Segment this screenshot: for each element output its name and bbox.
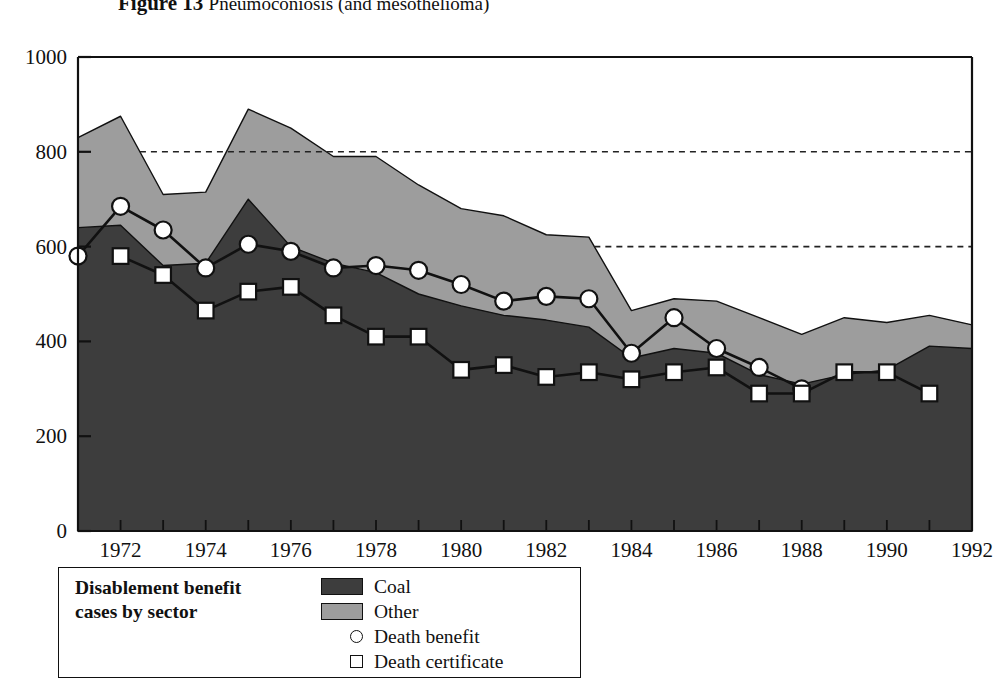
death-certificate-marker bbox=[453, 362, 469, 378]
death-certificate-marker bbox=[368, 329, 384, 345]
death-benefit-marker bbox=[155, 222, 172, 239]
death-certificate-marker bbox=[113, 248, 129, 264]
death-certificate-marker bbox=[879, 364, 895, 380]
y-tick-label: 0 bbox=[57, 519, 68, 543]
death-certificate-marker bbox=[496, 357, 512, 373]
death-certificate-marker bbox=[198, 303, 214, 319]
x-tick-label: 1992 bbox=[951, 538, 993, 562]
death-benefit-marker bbox=[495, 293, 512, 310]
death-benefit-marker bbox=[580, 290, 597, 307]
x-tick-label: 1982 bbox=[525, 538, 567, 562]
death-benefit-marker bbox=[282, 243, 299, 260]
death-benefit-marker bbox=[368, 257, 385, 274]
death-certificate-marker bbox=[794, 386, 810, 402]
legend-item-other: Other bbox=[321, 599, 571, 624]
death-certificate-marker bbox=[709, 360, 725, 376]
death-benefit-marker bbox=[538, 288, 555, 305]
legend-item-death-certificate: Death certificate bbox=[321, 649, 571, 674]
x-tick-label: 1986 bbox=[696, 538, 738, 562]
death-certificate-marker bbox=[240, 284, 256, 300]
death-certificate-marker bbox=[581, 364, 597, 380]
y-tick-label: 200 bbox=[36, 424, 68, 448]
death-benefit-marker bbox=[666, 309, 683, 326]
legend-label-death-certificate: Death certificate bbox=[374, 652, 503, 672]
legend-item-coal: Coal bbox=[321, 574, 571, 599]
x-tick-label: 1988 bbox=[781, 538, 823, 562]
death-certificate-marker bbox=[538, 369, 554, 385]
death-certificate-marker bbox=[411, 329, 427, 345]
death-benefit-marker bbox=[325, 259, 342, 276]
square-marker-icon bbox=[321, 655, 363, 668]
x-tick-label: 1972 bbox=[100, 538, 142, 562]
legend-item-death-benefit: Death benefit bbox=[321, 624, 571, 649]
y-tick-label: 400 bbox=[36, 329, 68, 353]
legend-items: Coal Other Death benefit Death certifica… bbox=[321, 574, 571, 674]
legend-title-line2: cases by sector bbox=[75, 600, 305, 624]
y-tick-label: 600 bbox=[36, 235, 68, 259]
death-certificate-marker bbox=[666, 364, 682, 380]
death-certificate-marker bbox=[751, 386, 767, 402]
other-swatch-icon bbox=[321, 603, 363, 620]
legend-label-death-benefit: Death benefit bbox=[374, 627, 480, 647]
death-certificate-marker bbox=[283, 279, 299, 295]
death-benefit-marker bbox=[197, 259, 214, 276]
legend-title-line1: Disablement benefit bbox=[75, 576, 305, 600]
death-certificate-marker bbox=[155, 267, 171, 283]
chart-legend: Disablement benefit cases by sector Coal… bbox=[58, 567, 581, 678]
death-benefit-marker bbox=[623, 345, 640, 362]
x-tick-label: 1976 bbox=[270, 538, 312, 562]
death-certificate-marker bbox=[326, 308, 342, 324]
x-tick-label: 1978 bbox=[355, 538, 397, 562]
death-benefit-marker bbox=[751, 359, 768, 376]
coal-swatch-icon bbox=[321, 578, 363, 595]
figure-pneumoconiosis: Figure 13 Pneumoconiosis (and mesothelio… bbox=[0, 0, 1004, 678]
y-tick-label: 1000 bbox=[25, 45, 67, 69]
death-benefit-marker bbox=[453, 276, 470, 293]
death-benefit-marker bbox=[240, 236, 257, 253]
death-certificate-marker bbox=[836, 364, 852, 380]
x-tick-label: 1984 bbox=[610, 538, 653, 562]
death-benefit-marker bbox=[410, 262, 427, 279]
death-benefit-marker bbox=[112, 198, 129, 215]
death-certificate-marker bbox=[922, 386, 938, 402]
legend-label-coal: Coal bbox=[374, 577, 411, 597]
legend-label-other: Other bbox=[374, 602, 418, 622]
death-certificate-marker bbox=[624, 372, 640, 388]
x-tick-label: 1990 bbox=[866, 538, 908, 562]
x-tick-label: 1974 bbox=[185, 538, 228, 562]
x-tick-label: 1980 bbox=[440, 538, 482, 562]
y-tick-label: 800 bbox=[36, 140, 68, 164]
circle-marker-icon bbox=[321, 630, 363, 643]
death-benefit-marker bbox=[708, 340, 725, 357]
legend-title: Disablement benefit cases by sector bbox=[75, 576, 305, 624]
